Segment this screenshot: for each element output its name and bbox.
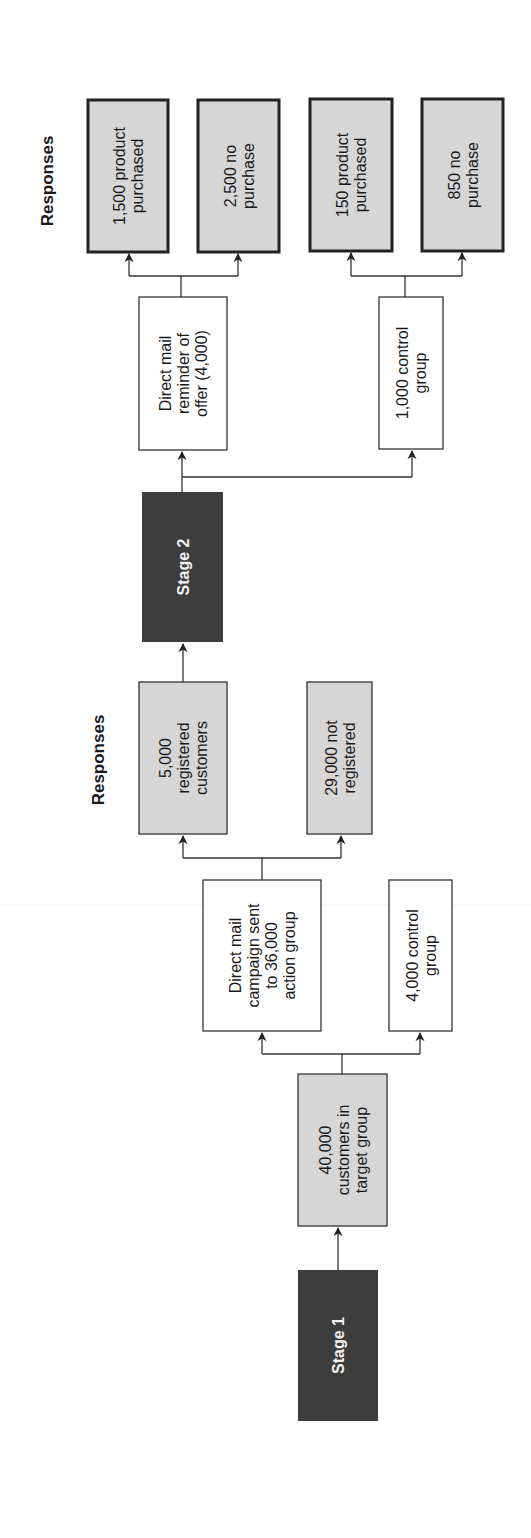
node-text-line: Direct mail	[157, 336, 174, 412]
no-purchase-2500-box: 2,500 nopurchase	[198, 100, 279, 252]
node-text-line: campaign sent	[245, 903, 262, 1008]
stage2-label: Stage 2	[175, 538, 192, 595]
node-text-line: 29,000 not	[323, 720, 340, 796]
stage1-box: Stage 1	[298, 1270, 378, 1421]
node-text-line: 1,000 control	[394, 327, 411, 420]
node-text-line: 1,500 product	[111, 127, 128, 225]
flow-diagram: Stage 1 40,000customers intarget group D…	[0, 0, 531, 1538]
no-purchase-850-text: 850 nopurchase	[446, 142, 481, 208]
stage1-label: Stage 1	[330, 1317, 347, 1374]
stage2-responses-heading: Responses	[38, 136, 57, 227]
node-text-line: 150 product	[334, 132, 351, 217]
node-text-line: registered	[175, 722, 192, 793]
node-text-line: to 36,000	[263, 922, 280, 989]
not-registered-text: 29,000 notregistered	[323, 720, 358, 796]
purchased-150-box: 150 productpurchased	[310, 99, 392, 251]
node-text-line: group	[422, 935, 439, 976]
node-text-line: purchase	[240, 143, 257, 209]
node-text-line: 5,000	[157, 738, 174, 778]
node-text-line: customers	[193, 721, 210, 795]
control-group-1000-box: 1,000 controlgroup	[379, 297, 443, 449]
action-group-box: Direct mailcampaign sentto 36,000action …	[203, 880, 321, 1031]
reminder-box: Direct mailreminder ofoffer (4,000)	[139, 297, 227, 450]
node-text-line: 2,500 no	[222, 145, 239, 207]
purchased-1500-box: 1,500 productpurchased	[88, 100, 168, 252]
node-text-line: registered	[341, 722, 358, 793]
control-group-4000-box: 4,000 controlgroup	[389, 880, 452, 1031]
registered-box: 5,000registeredcustomers	[139, 682, 227, 834]
stage1-responses-heading: Responses	[89, 715, 108, 806]
node-text-line: offer (4,000)	[193, 330, 210, 417]
no-purchase-850-box: 850 nopurchase	[422, 99, 503, 251]
reminder-text: Direct mailreminder ofoffer (4,000)	[157, 330, 210, 417]
node-text-line: purchased	[352, 138, 369, 213]
node-text-line: target group	[353, 1107, 370, 1193]
node-text-line: reminder of	[175, 332, 192, 413]
node-text-line: 4,000 control	[404, 909, 421, 1002]
target-group-box: 40,000customers intarget group	[298, 1074, 387, 1226]
node-text-line: Direct mail	[227, 918, 244, 994]
node-text-line: purchased	[129, 139, 146, 214]
node-text-line: 850 no	[446, 150, 463, 199]
node-text-line: 40,000	[317, 1125, 334, 1174]
purchased-150-text: 150 productpurchased	[334, 132, 369, 217]
purchased-1500-text: 1,500 productpurchased	[111, 127, 146, 225]
node-text-line: group	[412, 352, 429, 393]
node-text-line: purchase	[464, 142, 481, 208]
no-purchase-2500-text: 2,500 nopurchase	[222, 143, 257, 209]
not-registered-box: 29,000 notregistered	[307, 682, 372, 834]
stage2-box: Stage 2	[142, 492, 223, 642]
node-text-line: customers in	[335, 1105, 352, 1196]
node-text-line: action group	[281, 911, 298, 999]
